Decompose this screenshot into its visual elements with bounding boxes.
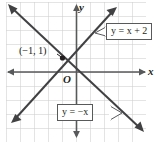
equation-callout-line-2: y = −x: [57, 104, 93, 121]
x-axis-label: x: [148, 66, 154, 77]
equation-callout-line-1: y = x + 2: [106, 23, 152, 40]
coordinate-plane-figure: x y O (−1, 1) y = x + 2 y = −x: [0, 0, 165, 148]
intersection-point-label: (−1, 1): [19, 46, 46, 57]
y-axis-label: y: [79, 2, 84, 13]
origin-label: O: [63, 74, 71, 85]
